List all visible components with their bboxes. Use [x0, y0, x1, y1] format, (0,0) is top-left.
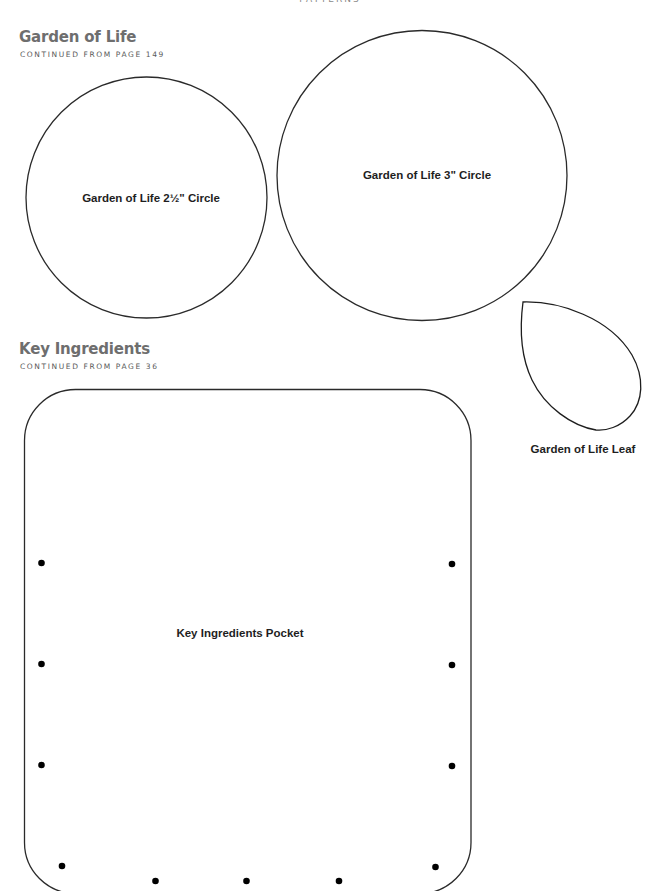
dot	[38, 560, 45, 567]
circle-small-label: Garden of Life 2½" Circle	[82, 192, 220, 204]
pocket-stitch-dots	[38, 560, 455, 885]
dot	[38, 661, 45, 668]
circle-large-label: Garden of Life 3" Circle	[363, 169, 491, 181]
dot	[152, 878, 159, 885]
leaf-outline	[521, 302, 640, 430]
leaf-label: Garden of Life Leaf	[531, 443, 636, 455]
dot	[38, 762, 45, 769]
dot	[449, 561, 456, 568]
dot	[59, 863, 66, 870]
dot	[449, 763, 456, 770]
pocket-outline	[25, 390, 472, 891]
dot	[336, 878, 343, 885]
pocket-label: Key Ingredients Pocket	[176, 627, 303, 639]
dot	[243, 878, 250, 885]
dot	[449, 662, 456, 669]
dot	[432, 864, 439, 871]
